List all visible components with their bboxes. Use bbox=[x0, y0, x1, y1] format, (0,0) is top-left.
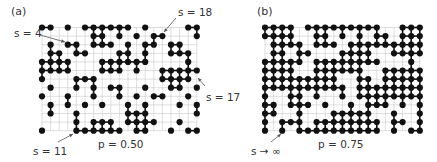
occupied-site bbox=[357, 67, 363, 73]
occupied-site bbox=[365, 50, 371, 56]
occupied-site bbox=[400, 76, 406, 82]
occupied-site bbox=[168, 42, 174, 48]
occupied-site bbox=[400, 119, 406, 125]
occupied-site bbox=[322, 24, 328, 30]
occupied-site bbox=[262, 85, 268, 91]
occupied-site bbox=[305, 24, 311, 30]
occupied-site bbox=[374, 42, 380, 48]
occupied-site bbox=[91, 76, 97, 82]
occupied-site bbox=[331, 42, 337, 48]
occupied-site bbox=[365, 85, 371, 91]
occupied-site bbox=[339, 110, 345, 116]
occupied-site bbox=[408, 67, 414, 73]
occupied-site bbox=[357, 24, 363, 30]
occupied-site bbox=[159, 67, 165, 73]
occupied-site bbox=[108, 119, 114, 125]
occupied-site bbox=[357, 33, 363, 39]
occupied-site bbox=[116, 93, 122, 99]
occupied-site bbox=[400, 85, 406, 91]
occupied-site bbox=[288, 67, 294, 73]
occupied-site bbox=[48, 102, 54, 108]
occupied-site bbox=[288, 76, 294, 82]
occupied-site bbox=[279, 76, 285, 82]
occupied-site bbox=[142, 24, 148, 30]
occupied-site bbox=[365, 110, 371, 116]
occupied-site bbox=[271, 50, 277, 56]
occupied-site bbox=[91, 24, 97, 30]
occupied-site bbox=[279, 67, 285, 73]
occupied-site bbox=[357, 85, 363, 91]
occupied-site bbox=[408, 59, 414, 65]
occupied-site bbox=[56, 67, 62, 73]
occupied-site bbox=[279, 24, 285, 30]
occupied-site bbox=[374, 59, 380, 65]
occupied-site bbox=[357, 42, 363, 48]
occupied-site bbox=[73, 128, 79, 134]
occupied-site bbox=[177, 119, 183, 125]
occupied-site bbox=[82, 50, 88, 56]
occupied-site bbox=[408, 42, 414, 48]
occupied-site bbox=[314, 119, 320, 125]
occupied-site bbox=[322, 76, 328, 82]
occupied-site bbox=[91, 33, 97, 39]
occupied-site bbox=[279, 59, 285, 65]
occupied-site bbox=[142, 85, 148, 91]
panel-a-probability: p = 0.50 bbox=[98, 139, 144, 150]
lattice-canvas bbox=[0, 0, 437, 162]
occupied-site bbox=[417, 119, 423, 125]
occupied-site bbox=[48, 42, 54, 48]
occupied-site bbox=[365, 76, 371, 82]
occupied-site bbox=[48, 24, 54, 30]
occupied-site bbox=[125, 119, 131, 125]
occupied-site bbox=[417, 42, 423, 48]
occupied-site bbox=[82, 76, 88, 82]
occupied-site bbox=[391, 85, 397, 91]
occupied-site bbox=[357, 93, 363, 99]
occupied-site bbox=[382, 102, 388, 108]
occupied-site bbox=[331, 119, 337, 125]
occupied-site bbox=[296, 76, 302, 82]
occupied-site bbox=[125, 110, 131, 116]
occupied-site bbox=[339, 59, 345, 65]
cluster-size-label-infinite: s → ∞ bbox=[251, 146, 281, 157]
occupied-site bbox=[296, 59, 302, 65]
occupied-site bbox=[142, 128, 148, 134]
occupied-site bbox=[417, 110, 423, 116]
occupied-site bbox=[382, 76, 388, 82]
occupied-site bbox=[134, 67, 140, 73]
occupied-site bbox=[65, 102, 71, 108]
occupied-site bbox=[408, 93, 414, 99]
occupied-site bbox=[177, 76, 183, 82]
occupied-site bbox=[48, 110, 54, 116]
occupied-site bbox=[374, 102, 380, 108]
occupied-site bbox=[374, 93, 380, 99]
occupied-site bbox=[391, 128, 397, 134]
occupied-site bbox=[408, 33, 414, 39]
occupied-site bbox=[262, 119, 268, 125]
occupied-site bbox=[185, 59, 191, 65]
occupied-site bbox=[314, 42, 320, 48]
occupied-site bbox=[99, 102, 105, 108]
occupied-site bbox=[159, 76, 165, 82]
occupied-site bbox=[382, 85, 388, 91]
occupied-site bbox=[365, 24, 371, 30]
occupied-site bbox=[194, 110, 200, 116]
occupied-site bbox=[262, 93, 268, 99]
occupied-site bbox=[348, 67, 354, 73]
occupied-site bbox=[194, 67, 200, 73]
occupied-site bbox=[194, 33, 200, 39]
occupied-site bbox=[91, 42, 97, 48]
occupied-site bbox=[142, 119, 148, 125]
occupied-site bbox=[296, 50, 302, 56]
occupied-site bbox=[339, 128, 345, 134]
occupied-site bbox=[348, 110, 354, 116]
occupied-site bbox=[185, 67, 191, 73]
occupied-site bbox=[159, 33, 165, 39]
occupied-site bbox=[82, 102, 88, 108]
occupied-site bbox=[271, 33, 277, 39]
occupied-site bbox=[348, 119, 354, 125]
occupied-site bbox=[99, 42, 105, 48]
occupied-site bbox=[296, 119, 302, 125]
occupied-site bbox=[331, 24, 337, 30]
occupied-site bbox=[382, 67, 388, 73]
